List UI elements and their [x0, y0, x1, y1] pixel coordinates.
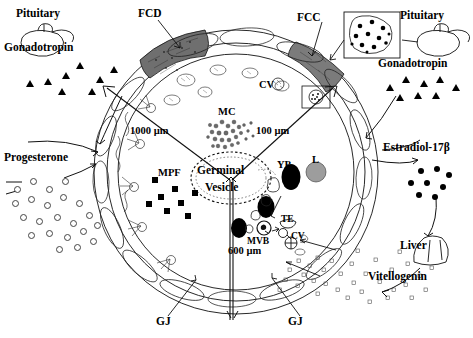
gonadotropin-triangle — [88, 88, 96, 95]
yolk-globule-3 — [231, 218, 247, 238]
estradiol-dot — [408, 180, 414, 186]
gonadotropin-triangle — [414, 92, 422, 99]
germinal-label: Germinal — [197, 165, 244, 177]
cv-top-label: CV — [259, 80, 274, 91]
gonadotropin-label-right: Gonadotropin — [378, 58, 447, 70]
liver-label: Liver — [400, 240, 427, 252]
mc-label: MC — [218, 107, 236, 118]
progesterone-circle — [80, 228, 87, 235]
cv-lower-label: CV — [291, 232, 305, 242]
fcc-patch — [288, 42, 344, 92]
gonadotropin-triangle — [26, 80, 34, 87]
progesterone-circle — [28, 232, 35, 239]
mpf-square — [185, 213, 191, 219]
progesterone-left-arrow-2 — [64, 164, 96, 178]
gonadotropin-triangle — [58, 88, 66, 95]
scale-100um: 100 µm — [256, 126, 289, 137]
estradiol-dot — [416, 192, 422, 198]
gonadotropin-triangle — [386, 84, 394, 91]
gonadotropin-triangle — [44, 78, 52, 85]
gonadotropin-triangle — [96, 76, 104, 83]
mpf-label: MPF — [158, 168, 181, 179]
gonadotropin-triangle — [76, 62, 84, 69]
gonadotropin-label-left: Gonadotropin — [4, 42, 73, 54]
gonadotropin-triangle — [436, 76, 444, 83]
gj-left-label: GJ — [156, 316, 171, 328]
l-label: L — [312, 155, 319, 166]
gonadotropin-right-arrow — [366, 96, 396, 138]
gonadotropin-triangle — [420, 80, 428, 87]
figure-canvas: Pituitary Gonadotropin Progesterone Pitu… — [0, 0, 473, 338]
scale-600um: 600 µm — [228, 246, 261, 257]
progesterone-circle — [64, 234, 71, 241]
fcd-label: FCD — [138, 8, 162, 20]
pituitary-label-left: Pituitary — [16, 8, 60, 20]
progesterone-circle — [46, 186, 53, 193]
progesterone-circle — [46, 230, 53, 237]
vesicle-label: Vesicle — [205, 182, 238, 194]
progesterone-circle — [56, 246, 63, 253]
mpf-square — [192, 190, 198, 196]
estradiol-dot — [418, 168, 424, 174]
estradiol-dot — [424, 180, 430, 186]
progesterone-circle — [36, 218, 43, 225]
gonadotropin-triangle — [452, 84, 460, 91]
progesterone-circle — [54, 214, 61, 221]
progesterone-circle — [20, 214, 27, 221]
gonadotropin-triangle — [62, 72, 70, 79]
mpf-square — [178, 200, 184, 206]
mpf-square — [164, 208, 170, 214]
progesterone-circle — [62, 178, 69, 185]
vitellogenin-label: Vitellogenin — [368, 271, 427, 283]
estradiol-to-liver-arrow — [428, 196, 436, 236]
gonadotropin-triangle — [402, 76, 410, 83]
progesterone-circle — [70, 220, 77, 227]
fcd-patch — [140, 30, 209, 78]
mpf-square — [172, 186, 178, 192]
mpf-square — [158, 194, 164, 200]
progesterone-label: Progesterone — [4, 152, 68, 164]
pituitary-right-sketch — [402, 24, 470, 57]
yp-label: YP — [277, 160, 291, 171]
progesterone-circle — [44, 202, 51, 209]
gonadotropin-triangle — [396, 94, 404, 101]
progesterone-circle — [12, 200, 19, 207]
progesterone-circle — [60, 194, 67, 201]
estradiol-dot — [432, 194, 438, 200]
estradiol-dot — [446, 172, 452, 178]
estradiol-dot — [434, 166, 440, 172]
progesterone-circle — [74, 244, 81, 251]
pituitary-label-right: Pituitary — [400, 10, 444, 22]
scale-1000um: 1000 µm — [130, 126, 168, 137]
progesterone-circle — [86, 212, 93, 219]
progesterone-circle — [14, 186, 21, 193]
progesterone-circle — [28, 196, 35, 203]
estradiol-dot — [440, 184, 446, 190]
gj-left-leader — [168, 280, 196, 316]
fcc-label: FCC — [297, 12, 321, 24]
progesterone-circle — [30, 178, 37, 185]
progesterone-circle — [90, 238, 97, 245]
mpf-square — [146, 201, 152, 207]
estradiol-label: Estradiol-17β — [383, 142, 450, 154]
gonadotropin-triangle — [432, 92, 440, 99]
progesterone-circle — [94, 222, 101, 229]
progesterone-circle — [76, 200, 83, 207]
gj-right-label: GJ — [288, 316, 303, 328]
te-label: TE — [281, 215, 294, 225]
gonadotropin-triangle — [110, 66, 118, 73]
